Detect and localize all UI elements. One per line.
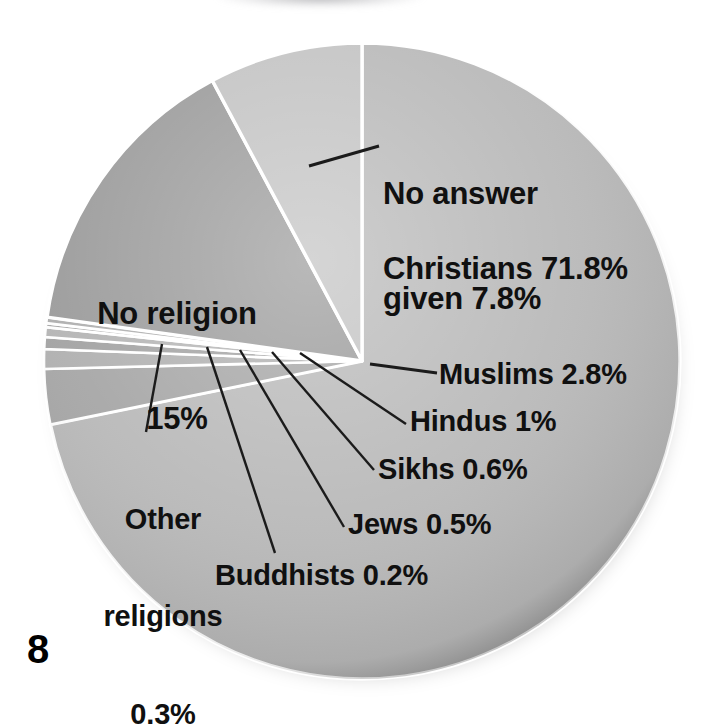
slice-label-other-line2: religions	[88, 600, 238, 632]
slice-label-no-answer-line1: No answer	[383, 177, 541, 212]
slice-label-sikhs: Sikhs 0.6%	[378, 453, 528, 485]
slice-label-christians: Christians 71.8%	[383, 252, 628, 287]
slice-label-no-answer-line2: given 7.8%	[383, 282, 541, 317]
slice-label-other-religions: Other religions 0.3%	[88, 438, 238, 728]
slice-label-no-religion-line2: 15%	[72, 402, 282, 437]
slice-label-jews: Jews 0.5%	[348, 508, 491, 540]
page-number: 8	[27, 627, 49, 672]
slice-label-other-line1: Other	[88, 503, 238, 535]
slice-label-hindus: Hindus 1%	[410, 405, 556, 437]
slice-label-no-religion-line1: No religion	[72, 297, 282, 332]
slice-label-other-line3: 0.3%	[88, 698, 238, 728]
slice-label-muslims: Muslims 2.8%	[439, 358, 627, 390]
slice-label-buddhists: Buddhists 0.2%	[215, 559, 428, 591]
slice-label-no-answer-given: No answer given 7.8%	[383, 108, 541, 386]
